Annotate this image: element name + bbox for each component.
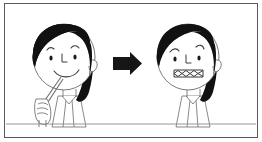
after-eye-right: [197, 55, 200, 60]
before-eye-right: [73, 54, 76, 59]
before-hand: [35, 99, 51, 125]
two-panel-illustration: [0, 0, 262, 142]
transition-arrow: [113, 52, 142, 75]
before-eye-left: [49, 55, 52, 60]
after-eye-left: [173, 56, 176, 61]
illustration-canvas: Eating sweets leads to toothache Girl ea…: [0, 0, 262, 142]
panel-before: [33, 24, 98, 127]
arrow-right-icon: [113, 52, 142, 75]
panel-after: [157, 24, 222, 127]
